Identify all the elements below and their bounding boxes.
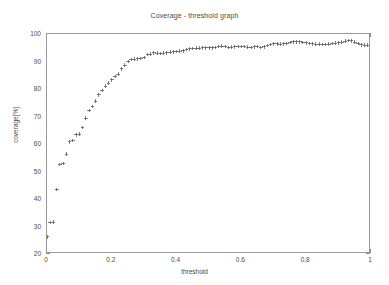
figure-canvas: Coverage - threshold graph coverage[%] t… <box>0 0 389 285</box>
y-tick-label: 40 <box>14 195 41 202</box>
y-tick-mark <box>46 253 50 254</box>
x-axis-label: threshold <box>0 268 389 275</box>
x-tick-label: 0.2 <box>106 256 115 263</box>
plot-frame <box>46 33 370 253</box>
y-tick-label: 100 <box>14 30 41 37</box>
y-tick-mark <box>366 253 370 254</box>
x-tick-mark <box>370 249 371 253</box>
x-tick-label: 0 <box>44 256 48 263</box>
y-tick-label: 80 <box>14 85 41 92</box>
y-tick-label: 70 <box>14 112 41 119</box>
data-series-scatter <box>47 34 369 252</box>
y-tick-label: 90 <box>14 57 41 64</box>
y-tick-label: 20 <box>14 250 41 257</box>
x-tick-label: 1 <box>368 256 372 263</box>
x-tick-label: 0.6 <box>236 256 245 263</box>
y-tick-label: 30 <box>14 222 41 229</box>
plot-area <box>47 34 369 252</box>
y-tick-label: 60 <box>14 140 41 147</box>
x-tick-label: 0.8 <box>301 256 310 263</box>
y-tick-label: 50 <box>14 167 41 174</box>
chart-title: Coverage - threshold graph <box>0 12 389 19</box>
x-tick-mark <box>370 33 371 37</box>
x-tick-label: 0.4 <box>171 256 180 263</box>
